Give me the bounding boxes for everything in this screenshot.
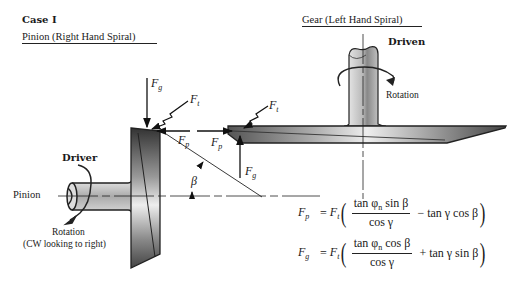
gear-rotation-label: Rotation <box>386 90 419 100</box>
force-ft-gear: Ft <box>269 98 279 114</box>
force-fp-gear: Fp <box>211 135 222 151</box>
angle-beta-label: β <box>191 174 197 189</box>
pinion-label: Pinion <box>13 189 40 200</box>
gear-driven-label: Driven <box>388 36 425 47</box>
equation-fg: Fg = Ft ( tan φn cos β cos γ + tan γ sin… <box>298 236 488 270</box>
force-fg-gear: Fg <box>245 164 256 180</box>
gear-body <box>228 34 506 202</box>
equation-fp: Fp = Ft ( tan φn sin β cos γ − tan γ cos… <box>298 196 488 230</box>
force-fp-pinion: Fp <box>178 133 189 149</box>
force-ft-pinion: Ft <box>190 92 200 108</box>
pinion-driver-label: Driver <box>62 152 97 163</box>
force-fg-pinion: Fg <box>151 76 162 92</box>
pinion-rotation-label: Rotation <box>52 227 85 237</box>
pinion-rotation-note: (CW looking to right) <box>23 239 106 249</box>
